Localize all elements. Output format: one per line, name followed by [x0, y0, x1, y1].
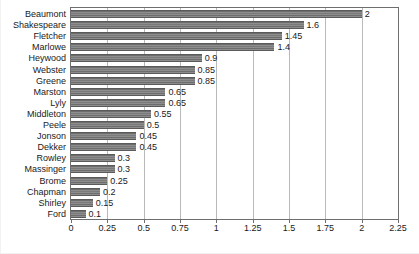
x-axis-tick-label: 2.25	[389, 222, 407, 234]
x-axis-tick-label: 1.75	[317, 222, 335, 234]
category-axis-labels: BeaumontShakespeareFletcherMarloweHeywoo…	[0, 7, 66, 220]
category-label: Ford	[0, 208, 66, 220]
bar	[71, 88, 165, 96]
bar	[71, 165, 115, 173]
bar	[71, 54, 202, 62]
bar	[71, 21, 304, 29]
bar-row	[71, 208, 398, 220]
bar	[71, 154, 115, 162]
bar-value-label: 1.4	[277, 41, 290, 53]
x-axis-tick-label: 2	[359, 222, 364, 234]
x-axis-tick-label: 0	[68, 222, 73, 234]
x-axis-tick-label: 0.5	[137, 222, 150, 234]
bar	[71, 188, 100, 196]
bar-value-label: 1.6	[307, 19, 320, 31]
bar	[71, 43, 274, 51]
x-axis-tick-label: 1.25	[244, 222, 262, 234]
x-axis-tick-label: 0.75	[171, 222, 189, 234]
bar	[71, 32, 282, 40]
bar-value-label: 0.1	[89, 208, 102, 220]
bar-value-label: 0.85	[198, 75, 216, 87]
bar	[71, 121, 144, 129]
x-axis-tick-label: 1.5	[283, 222, 296, 234]
bar-value-label: 0.45	[139, 141, 157, 153]
bar-chart: BeaumontShakespeareFletcherMarloweHeywoo…	[0, 0, 419, 254]
bar	[71, 99, 165, 107]
bar	[71, 210, 86, 218]
bar	[71, 143, 136, 151]
x-axis-tick-label: 1	[214, 222, 219, 234]
bar-series	[71, 8, 398, 219]
bar	[71, 177, 107, 185]
bar	[71, 66, 195, 74]
bar-value-label: 2	[365, 8, 370, 20]
bar	[71, 132, 136, 140]
x-axis-tick-label: 0.25	[99, 222, 117, 234]
x-axis-tick-labels: 00.250.50.7511.251.51.7522.25	[70, 222, 399, 238]
bar	[71, 10, 362, 18]
bar	[71, 199, 93, 207]
bar	[71, 110, 151, 118]
plot-area	[70, 7, 399, 220]
bar	[71, 77, 195, 85]
